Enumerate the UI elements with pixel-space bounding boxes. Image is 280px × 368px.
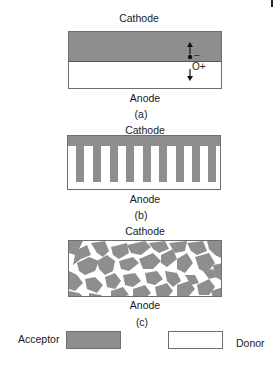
panel-b-fingers	[68, 136, 221, 190]
panel-b-anode-label: Anode	[130, 193, 160, 205]
panel-a-caption: (a)	[135, 108, 148, 120]
panel-b-caption: (b)	[135, 209, 148, 221]
panel-a-cathode-label: Cathode	[119, 12, 159, 24]
panel-c-bulk-heterojunction	[68, 240, 222, 297]
electron-dot-icon	[188, 55, 192, 59]
legend-donor-swatch	[168, 331, 223, 349]
panel-c-cathode-label: Cathode	[125, 225, 165, 237]
page-corner-mark	[271, 0, 273, 7]
panel-b-interdigitated	[67, 135, 221, 190]
panel-a-anode-label: Anode	[130, 92, 160, 104]
panel-c-caption: (c)	[136, 316, 148, 328]
legend-acceptor-label: Acceptor	[18, 333, 59, 345]
legend-donor-label: Donor	[236, 337, 265, 349]
panel-c-blend-domains	[69, 241, 222, 297]
legend-acceptor-swatch	[66, 331, 121, 349]
hole-label: O+	[192, 61, 206, 73]
panel-c-anode-label: Anode	[130, 299, 160, 311]
